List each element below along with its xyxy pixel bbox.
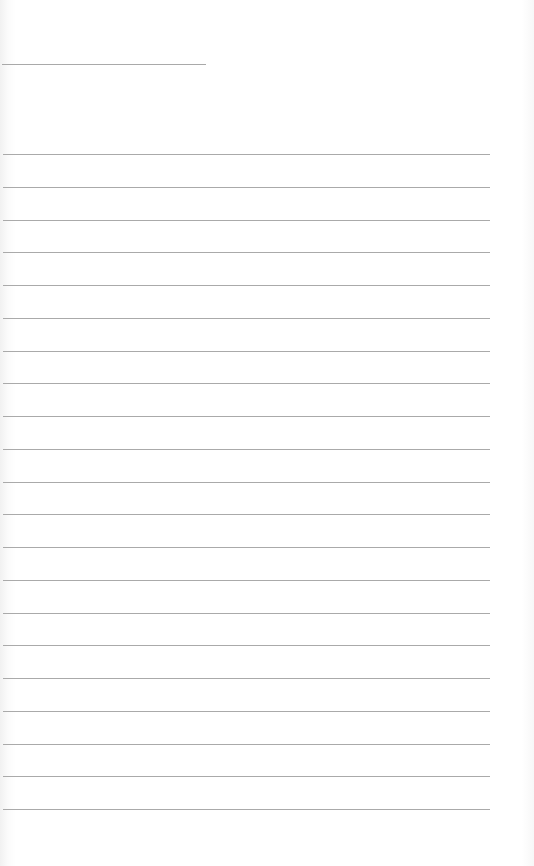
ruled-line xyxy=(3,351,490,352)
ruled-line xyxy=(3,514,490,515)
ruled-line xyxy=(3,285,490,286)
ruled-line xyxy=(3,776,490,777)
ruled-line xyxy=(3,187,490,188)
ruled-line xyxy=(3,416,490,417)
ruled-line xyxy=(3,613,490,614)
ruled-line xyxy=(3,154,490,155)
ruled-line xyxy=(3,449,490,450)
ruled-line xyxy=(3,744,490,745)
ruled-line xyxy=(3,645,490,646)
lined-paper-sheet xyxy=(0,0,534,866)
ruled-line xyxy=(3,580,490,581)
ruled-line xyxy=(3,547,490,548)
ruled-line xyxy=(3,383,490,384)
ruled-line xyxy=(3,678,490,679)
title-rule-line xyxy=(2,64,206,65)
ruled-line xyxy=(3,711,490,712)
ruled-line xyxy=(3,252,490,253)
ruled-line xyxy=(3,809,490,810)
ruled-line xyxy=(3,482,490,483)
ruled-line xyxy=(3,318,490,319)
ruled-line xyxy=(3,220,490,221)
